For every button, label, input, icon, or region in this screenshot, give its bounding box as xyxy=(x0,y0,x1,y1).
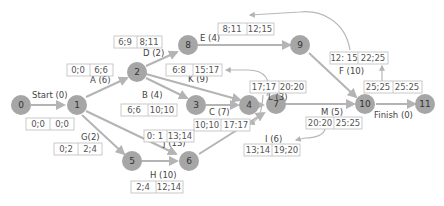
svg-text:0: 0 xyxy=(18,100,24,110)
svg-text:9: 9 xyxy=(297,40,303,50)
svg-text:6;9: 6;9 xyxy=(118,37,132,47)
label-g: G(2) xyxy=(81,132,100,142)
box-e: 8;1112;15 xyxy=(218,23,274,35)
svg-text:0;0: 0;0 xyxy=(31,119,45,129)
svg-text:13;14: 13;14 xyxy=(246,145,271,155)
label-finish: Finish (0) xyxy=(374,110,413,120)
node-1: 1 xyxy=(67,95,87,115)
svg-text:20:20: 20:20 xyxy=(280,82,305,92)
svg-text:6: 6 xyxy=(186,156,192,166)
label-start: Start (0) xyxy=(32,90,68,100)
node-2: 2 xyxy=(127,62,147,82)
svg-text:8: 8 xyxy=(185,40,191,50)
box-b: 6;610;10 xyxy=(121,104,177,116)
node-3: 3 xyxy=(186,95,206,115)
box-h: 2;412;14 xyxy=(131,181,183,193)
svg-text:2: 2 xyxy=(134,67,140,77)
box-a: 0;06;6 xyxy=(67,64,113,76)
project-network-diagram: 0 1 2 3 4 5 6 7 8 9 10 11 Start (0) A (6… xyxy=(0,0,444,206)
box-i: 13;1419;20 xyxy=(244,144,300,156)
node-8: 8 xyxy=(178,35,198,55)
node-5: 5 xyxy=(122,151,142,171)
box-g: 0;22;4 xyxy=(54,143,102,155)
svg-text:19;20: 19;20 xyxy=(274,145,299,155)
svg-text:0: 1: 0: 1 xyxy=(147,131,163,141)
box-m: 20:2025:25 xyxy=(306,117,362,129)
label-h: H (10) xyxy=(150,170,177,180)
svg-text:25;25: 25;25 xyxy=(366,82,391,92)
label-f: F (10) xyxy=(339,66,364,76)
svg-text:0;0: 0;0 xyxy=(71,65,85,75)
svg-text:10: 10 xyxy=(359,99,371,109)
node-6: 6 xyxy=(179,151,199,171)
box-f: 12: 1522;25 xyxy=(330,52,388,64)
box-finish: 25;2525:25 xyxy=(364,81,422,93)
label-a: A (6) xyxy=(90,75,111,85)
svg-text:11: 11 xyxy=(419,99,430,109)
label-m: M (5) xyxy=(321,107,343,117)
node-11: 11 xyxy=(415,94,435,114)
svg-text:0;2: 0;2 xyxy=(59,144,73,154)
label-l: L (3) xyxy=(268,92,287,102)
label-e: E (4) xyxy=(200,33,220,43)
box-c: 10;1017:17 xyxy=(194,119,250,131)
svg-text:6:8: 6:8 xyxy=(172,65,186,75)
box-k: 6:815:17 xyxy=(166,64,222,76)
node-0: 0 xyxy=(11,95,31,115)
svg-text:25:25: 25:25 xyxy=(336,118,361,128)
svg-text:6;6: 6;6 xyxy=(127,105,141,115)
svg-text:15:17: 15:17 xyxy=(195,65,220,75)
svg-text:8;11: 8;11 xyxy=(222,24,241,34)
box-l: 17;1720:20 xyxy=(250,81,306,93)
svg-text:5: 5 xyxy=(129,156,135,166)
svg-text:22;25: 22;25 xyxy=(361,53,386,63)
box-d: 6;98;11 xyxy=(114,36,162,48)
svg-text:12;15: 12;15 xyxy=(248,24,273,34)
svg-text:10;10: 10;10 xyxy=(195,120,220,130)
label-d: D (2) xyxy=(143,48,164,58)
svg-text:17;17: 17;17 xyxy=(252,82,277,92)
svg-text:3: 3 xyxy=(193,100,199,110)
svg-text:1: 1 xyxy=(74,100,80,110)
label-i: I (6) xyxy=(265,134,282,144)
label-b: B (4) xyxy=(142,90,163,100)
svg-text:0;0: 0;0 xyxy=(55,119,69,129)
node-9: 9 xyxy=(290,35,310,55)
leader-m-to-i xyxy=(296,128,325,140)
svg-text:20:20: 20:20 xyxy=(308,118,333,128)
svg-text:10;10: 10;10 xyxy=(150,105,175,115)
label-c: C (7) xyxy=(209,107,230,117)
box-j: 0: 113;14 xyxy=(144,130,194,142)
node-4: 4 xyxy=(239,95,259,115)
svg-text:4: 4 xyxy=(246,100,252,110)
node-10: 10 xyxy=(355,94,375,114)
box-start: 0;00;0 xyxy=(26,118,74,130)
svg-text:13;14: 13;14 xyxy=(168,131,193,141)
svg-text:2;4: 2;4 xyxy=(136,182,150,192)
svg-text:2;4: 2;4 xyxy=(83,144,97,154)
svg-text:12;14: 12;14 xyxy=(157,182,182,192)
svg-text:6;6: 6;6 xyxy=(94,65,108,75)
svg-text:25:25: 25:25 xyxy=(395,82,420,92)
svg-text:8;11: 8;11 xyxy=(139,37,158,47)
svg-text:17:17: 17:17 xyxy=(224,120,249,130)
svg-text:12: 15: 12: 15 xyxy=(330,53,357,63)
